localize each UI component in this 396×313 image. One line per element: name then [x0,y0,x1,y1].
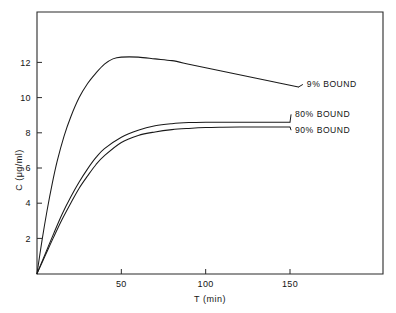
series-label-9-bound: 9% BOUND [307,79,357,89]
y-tick-label-2: 2 [26,234,31,244]
y-tick-label-6: 6 [26,163,31,173]
chart-figure: 24681012 50100150 9% BOUND80% BOUND90% B… [0,0,396,313]
y-tick-label-8: 8 [26,128,31,138]
y-tick-label-12: 12 [20,58,31,68]
y-axis-label: C (μg/ml) [14,149,24,191]
y-tick-label-10: 10 [20,93,31,103]
x-axis-label: T (min) [194,294,226,304]
series-label-90-bound: 90% BOUND [295,125,350,135]
series-label-80-bound: 80% BOUND [295,109,350,119]
x-tick-label-150: 150 [282,279,298,289]
line-chart: 24681012 50100150 9% BOUND80% BOUND90% B… [0,0,396,313]
chart-background [0,0,396,313]
x-tick-label-50: 50 [116,279,127,289]
y-tick-label-4: 4 [26,198,31,208]
x-tick-label-100: 100 [198,279,214,289]
